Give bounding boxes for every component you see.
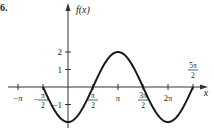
axes [8, 3, 208, 128]
y-axis-arrow-icon [66, 3, 71, 11]
x-axis-label: x [203, 87, 209, 98]
x-tick-label: 2π [164, 93, 173, 103]
x-tick-label-denominator: 2 [141, 101, 145, 110]
x-tick-label: π [116, 93, 121, 103]
x-tick-label: −π [13, 93, 23, 103]
x-tick-label-denominator: 2 [191, 71, 195, 80]
y-tick-label: 2 [58, 47, 63, 57]
x-tick-label-numerator: 5π [189, 61, 197, 70]
x-tick-label-sign: − [34, 95, 39, 104]
x-tick-label-denominator: 2 [91, 101, 95, 110]
function-graph: f(x)x−π−π2π2π3π22π5π221−1 [0, 0, 214, 132]
x-tick-label-numerator: π [91, 91, 95, 100]
x-tick-label-denominator: 2 [41, 101, 45, 110]
y-axis-label: f(x) [76, 4, 91, 16]
ticks: f(x)x−π−π2π2π3π22π5π221−1 [13, 4, 208, 110]
y-tick-label: 1 [58, 65, 63, 75]
